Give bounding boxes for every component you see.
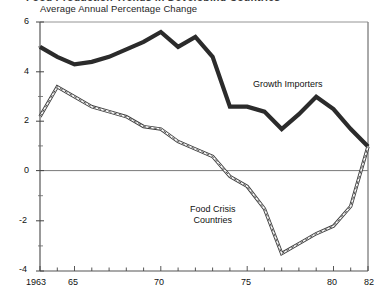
- series-annotation-food-crisis-countries: Food Crisis Countries: [190, 204, 236, 226]
- x-axis-ticks: [40, 266, 368, 271]
- x-tick-label-75: 75: [241, 277, 251, 287]
- y-tick-label-2: 2: [24, 115, 29, 125]
- food-crisis-label-line1: Food Crisis: [190, 204, 236, 215]
- line-chart-plot: [0, 0, 384, 292]
- x-tick-label-80: 80: [327, 277, 337, 287]
- y-tick-label-0: 0: [24, 165, 29, 175]
- series-annotation-growth-importers: Growth Importers: [253, 79, 323, 90]
- chart-figure: Food Production Trends in Developing Cou…: [0, 0, 384, 292]
- chart-supertitle-clipped: Food Production Trends in Developing Cou…: [26, 0, 366, 1]
- y-tick-label-neg2: -2: [19, 215, 27, 225]
- x-tick-label-1963: 1963: [26, 277, 46, 287]
- x-tick-label-82: 82: [364, 277, 374, 287]
- chart-subtitle: Average Annual Percentage Change: [40, 3, 197, 14]
- x-tick-label-70: 70: [154, 277, 164, 287]
- y-tick-label-4: 4: [24, 66, 29, 76]
- y-tick-label-neg4: -4: [19, 264, 27, 274]
- x-tick-label-65: 65: [68, 277, 78, 287]
- food-crisis-label-line2: Countries: [190, 215, 236, 226]
- y-tick-label-6: 6: [24, 16, 29, 26]
